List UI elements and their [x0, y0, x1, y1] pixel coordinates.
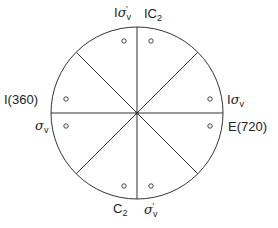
- pole-point: [149, 184, 153, 188]
- center-point: [136, 112, 139, 115]
- label-i-c2: IC2: [144, 7, 162, 23]
- label-i-sigma-v-prime: Iσv′: [114, 5, 128, 22]
- pole-point: [149, 39, 153, 43]
- label-i-360: I(360): [4, 93, 38, 106]
- projection-diagram: [0, 0, 278, 228]
- pole-point: [64, 124, 68, 128]
- label-c2: C2: [113, 202, 127, 218]
- pole-point: [122, 184, 126, 188]
- pole-point: [64, 97, 68, 101]
- label-i-sigma-v: Iσv: [227, 93, 244, 109]
- pole-point: [208, 124, 212, 128]
- label-sigma-v: σv: [35, 119, 48, 135]
- pole-point: [208, 97, 212, 101]
- label-e-720: E(720): [228, 120, 267, 133]
- pole-point: [122, 39, 126, 43]
- label-sigma-v-prime: σv′: [144, 202, 154, 219]
